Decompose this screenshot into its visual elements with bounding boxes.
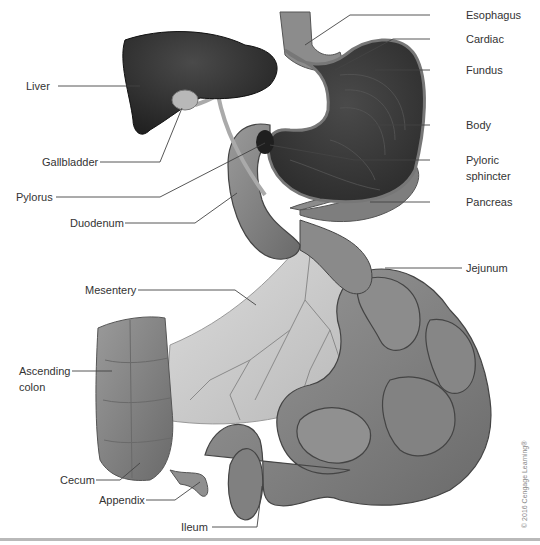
label-esophagus: Esophagus xyxy=(466,8,521,22)
label-pyloric-sphincter-line2: sphincter xyxy=(466,169,511,183)
label-pylorus: Pylorus xyxy=(16,190,53,204)
label-cardiac: Cardiac xyxy=(466,32,504,46)
anatomy-illustration xyxy=(0,0,540,545)
bottom-divider xyxy=(0,538,540,541)
liver-shape xyxy=(123,32,277,135)
label-pyloric-sphincter-line1: Pyloric xyxy=(466,153,499,167)
label-liver: Liver xyxy=(26,79,50,93)
label-ascending-colon-line1: Ascending xyxy=(19,364,70,378)
leader-duodenum xyxy=(125,193,237,223)
appendix-shape xyxy=(170,470,208,496)
label-ascending-colon-line2: colon xyxy=(19,380,45,394)
label-jejunum: Jejunum xyxy=(466,261,508,275)
leader-mesentery xyxy=(138,290,256,305)
label-fundus: Fundus xyxy=(466,63,503,77)
digestive-system-diagram: Liver Gallbladder Pylorus Duodenum Mesen… xyxy=(0,0,540,545)
ascending-colon-shape xyxy=(96,317,173,481)
copyright-notice: © 2016 Cengage Learning® xyxy=(521,441,528,528)
pyloric-sphincter-shape xyxy=(256,130,274,154)
leader-esophagus xyxy=(305,15,430,45)
label-body: Body xyxy=(466,118,491,132)
label-ileum: Ileum xyxy=(181,520,208,534)
label-pancreas: Pancreas xyxy=(466,195,512,209)
gallbladder-shape xyxy=(172,90,198,110)
label-gallbladder: Gallbladder xyxy=(42,155,98,169)
label-duodenum: Duodenum xyxy=(70,216,124,230)
label-mesentery: Mesentery xyxy=(85,283,136,297)
label-cecum: Cecum xyxy=(60,473,95,487)
label-appendix: Appendix xyxy=(99,493,145,507)
